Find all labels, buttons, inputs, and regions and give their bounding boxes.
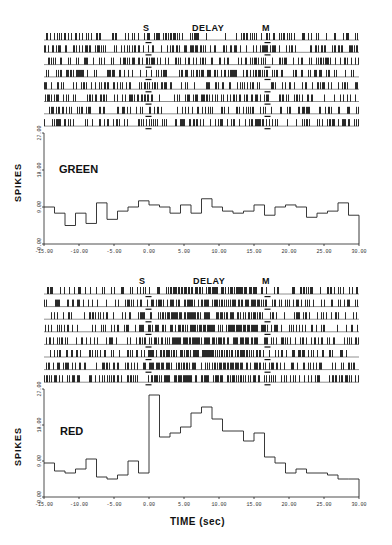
svg-text:-10.00: -10.00	[70, 502, 88, 508]
y-axis-label-red: SPIKES	[13, 427, 23, 466]
svg-text:9.00: 9.00	[37, 201, 43, 213]
svg-text:0.00: 0.00	[143, 502, 155, 508]
spike-histogram-figure: 0.009.0018.0027.00-15.00-10.00-5.000.005…	[0, 0, 392, 545]
svg-text:-5.00: -5.00	[106, 502, 121, 508]
svg-text:30.00: 30.00	[351, 502, 366, 508]
green-panel-label: GREEN	[59, 163, 98, 175]
svg-text:27.00: 27.00	[37, 381, 43, 396]
svg-text:5.00: 5.00	[178, 502, 190, 508]
y-axis-label-green: SPIKES	[13, 163, 23, 202]
svg-text:15.00: 15.00	[246, 502, 261, 508]
svg-text:10.00: 10.00	[211, 502, 226, 508]
svg-text:-15.00: -15.00	[35, 249, 53, 255]
svg-text:25.00: 25.00	[316, 502, 331, 508]
svg-text:30.00: 30.00	[351, 249, 366, 255]
svg-text:18.00: 18.00	[37, 162, 43, 177]
svg-text:-15.00: -15.00	[35, 502, 53, 508]
svg-text:15.00: 15.00	[246, 249, 261, 255]
svg-text:5.00: 5.00	[178, 249, 190, 255]
svg-text:-5.00: -5.00	[106, 249, 121, 255]
svg-text:-10.00: -10.00	[70, 249, 88, 255]
svg-text:25.00: 25.00	[316, 249, 331, 255]
x-axis-label: TIME (sec)	[170, 516, 225, 527]
red-panel-label: RED	[60, 425, 83, 437]
svg-text:18.00: 18.00	[37, 417, 43, 432]
svg-text:10.00: 10.00	[211, 249, 226, 255]
svg-text:0.00: 0.00	[143, 249, 155, 255]
svg-text:20.00: 20.00	[281, 249, 296, 255]
svg-text:27.00: 27.00	[37, 125, 43, 140]
svg-text:9.00: 9.00	[37, 455, 43, 467]
svg-text:20.00: 20.00	[281, 502, 296, 508]
